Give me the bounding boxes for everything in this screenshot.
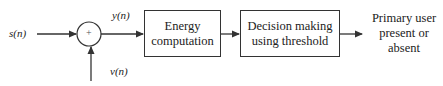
input-signal-label: s(n) <box>9 27 26 39</box>
decision-block-line-2: using threshold <box>247 34 332 49</box>
output-line-3: absent <box>366 41 442 56</box>
output-label: Primary user present or absent <box>366 11 442 56</box>
energy-block-line-1: Energy <box>151 19 214 34</box>
output-line-1: Primary user <box>366 11 442 26</box>
energy-block-line-2: computation <box>151 34 214 49</box>
output-line-2: present or <box>366 26 442 41</box>
decision-making-block: Decision making using threshold <box>240 10 340 57</box>
energy-computation-block: Energy computation <box>144 10 221 57</box>
adder-plus-symbol: + <box>86 27 92 38</box>
noise-signal-label: v(n) <box>110 65 128 77</box>
summed-signal-label: y(n) <box>112 9 130 21</box>
decision-block-line-1: Decision making <box>247 19 332 34</box>
